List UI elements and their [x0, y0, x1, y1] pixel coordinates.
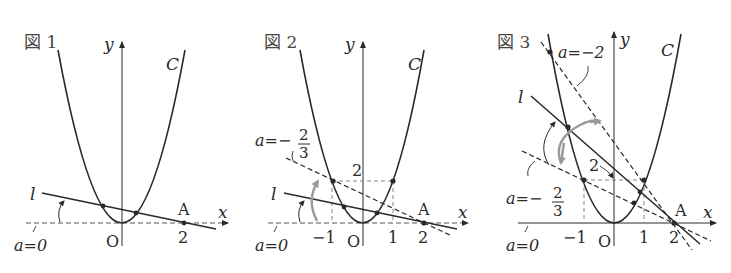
line-l-label: l — [518, 87, 523, 107]
leader-line — [292, 151, 293, 161]
curve-c-label: C — [166, 54, 179, 74]
point-a-label: A — [177, 200, 190, 219]
rotation-arrow-down — [561, 143, 564, 163]
point-minus1-2 — [581, 177, 586, 182]
intersection-point — [565, 124, 570, 129]
figure-1-title: 図 1 — [24, 32, 57, 52]
a-eq-minus-label: a=− — [506, 189, 542, 208]
tick-minus-1: −1 — [312, 228, 336, 247]
point-a — [182, 221, 187, 226]
angle-arc — [59, 201, 64, 222]
figure-3-title: 図 3 — [497, 32, 530, 52]
line-l-label: l — [271, 184, 276, 204]
parabola-c — [300, 50, 424, 223]
intersection-point — [375, 211, 380, 216]
y-axis-label: y — [619, 29, 630, 49]
x-axis-label: x — [703, 202, 713, 222]
tick-minus-1: −1 — [563, 228, 587, 247]
line-l — [42, 193, 216, 229]
a-eq-minus-2-label: a=−2 — [558, 43, 605, 62]
line-l — [284, 193, 457, 229]
line-l-label: l — [30, 184, 35, 204]
leader-line — [528, 161, 535, 176]
point-a-label: A — [674, 201, 687, 220]
x-axis-label: x — [458, 202, 468, 222]
tick-1: 1 — [388, 228, 398, 247]
point-a — [671, 220, 676, 225]
curve-c-label: C — [661, 40, 674, 60]
point-1-2 — [641, 177, 646, 182]
point-a-label: A — [417, 200, 430, 219]
origin-label: O — [106, 232, 119, 251]
a-eq-0-label: a=0 — [506, 236, 539, 255]
tick-1: 1 — [639, 228, 649, 247]
fraction-numerator: 2 — [553, 184, 563, 202]
line-a-minus-two-thirds — [522, 151, 711, 241]
pointer-arrow — [600, 166, 613, 178]
x-axis-label: x — [218, 202, 228, 222]
angle-arc — [544, 122, 555, 165]
rotation-arrow-gray — [312, 181, 318, 221]
a-eq-minus-label: a=− — [255, 131, 291, 150]
leader-line — [274, 226, 277, 232]
y-tick-2: 2 — [589, 156, 599, 175]
a-eq-0-label: a=0 — [14, 236, 47, 255]
point-a — [421, 220, 426, 225]
angle-arc — [299, 201, 304, 222]
intersection-point — [134, 211, 139, 216]
point-1-2 — [390, 178, 395, 183]
y-axis-label: y — [103, 34, 114, 54]
intersection-point — [101, 204, 106, 209]
y-tick-2: 2 — [352, 161, 362, 180]
origin-label: O — [598, 232, 611, 251]
leader-line — [33, 226, 36, 232]
figure-3: 図 3 y x C 2 l A −1 O 1 2 — [497, 29, 716, 255]
y-axis-label: y — [344, 34, 355, 54]
a-eq-0-label: a=0 — [255, 236, 288, 255]
leader-line — [577, 66, 588, 86]
intersection-point — [632, 201, 637, 206]
curve-c-label: C — [408, 54, 421, 74]
tick-2: 2 — [418, 228, 428, 247]
fraction-denominator: 3 — [553, 202, 563, 220]
intersection-point — [638, 190, 643, 195]
intersection-point — [342, 205, 347, 210]
figure-1: 図 1 y x C l A 2 O a=0 — [14, 32, 228, 255]
diagram-canvas: 図 1 y x C l A 2 O a=0 図 2 y x C — [0, 0, 731, 273]
figure-2-title: 図 2 — [264, 32, 297, 52]
tick-2: 2 — [178, 228, 188, 247]
leader-line — [525, 226, 528, 232]
fraction-numerator: 2 — [299, 126, 309, 144]
rotation-arrow-right — [590, 121, 600, 122]
origin-label: O — [347, 232, 360, 251]
intersection-point — [547, 49, 552, 54]
fraction-denominator: 3 — [299, 144, 309, 162]
figure-2: 図 2 y x C 2 l A −1 O 1 2 a — [255, 32, 468, 255]
tick-2: 2 — [669, 228, 679, 247]
point-minus1-2 — [330, 178, 335, 183]
